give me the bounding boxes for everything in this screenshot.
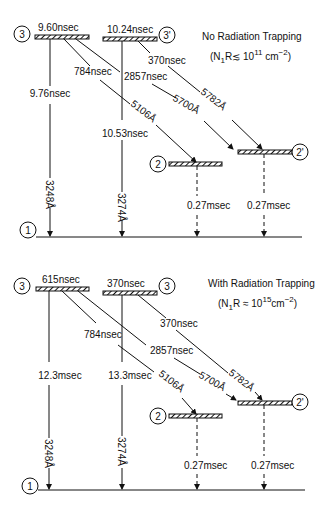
level-2prime-bar bbox=[238, 150, 292, 154]
svg-text:370nsec: 370nsec bbox=[148, 55, 186, 66]
level-3prime: 370nsec 3 bbox=[103, 278, 175, 295]
svg-text:2857nsec: 2857nsec bbox=[150, 345, 193, 356]
svg-text:3274Å: 3274Å bbox=[116, 437, 128, 466]
level-2: 2 bbox=[150, 156, 222, 172]
svg-text:9.76nsec: 9.76nsec bbox=[30, 88, 71, 99]
svg-text:5782Å: 5782Å bbox=[227, 366, 257, 393]
level-3prime-bar bbox=[103, 291, 157, 295]
level-3prime-lifetime: 370nsec bbox=[107, 278, 145, 289]
level-2prime-bar bbox=[238, 401, 292, 405]
svg-text:2: 2 bbox=[155, 411, 161, 422]
svg-text:5700Å: 5700Å bbox=[171, 91, 202, 116]
transition-2-to-1: 0.27msec bbox=[187, 166, 230, 236]
level-3-bar bbox=[36, 287, 89, 291]
svg-text:3: 3 bbox=[19, 29, 25, 40]
svg-text:3: 3 bbox=[19, 281, 25, 292]
panel-with-trapping: With Radiation Trapping (N1R ≈ 1015cm−2)… bbox=[14, 274, 315, 494]
level-3-lifetime: 615nsec bbox=[42, 274, 80, 285]
svg-text:0.27msec: 0.27msec bbox=[251, 460, 294, 471]
svg-text:5782Å: 5782Å bbox=[199, 85, 229, 112]
level-3-lifetime: 9.60nsec bbox=[38, 22, 79, 33]
svg-text:3': 3' bbox=[163, 30, 171, 41]
level-2: 2 bbox=[150, 408, 222, 424]
level-3prime: 10.24nsec 3' bbox=[103, 24, 175, 43]
transition-3-to-1: 12.3msec 3248Å bbox=[38, 291, 81, 489]
svg-text:10.53nsec: 10.53nsec bbox=[102, 128, 148, 139]
level-2prime: 2' bbox=[238, 144, 308, 160]
energy-level-diagram: No Radiation Trapping (N1R≲ 1011 cm−2) 3… bbox=[0, 0, 334, 512]
level-2-bar bbox=[169, 162, 222, 166]
svg-text:0.27msec: 0.27msec bbox=[184, 460, 227, 471]
level-2-bar bbox=[169, 414, 222, 418]
panel-no-trapping: No Radiation Trapping (N1R≲ 1011 cm−2) 3… bbox=[14, 22, 308, 238]
svg-text:3248Å: 3248Å bbox=[43, 439, 55, 468]
svg-text:3248Å: 3248Å bbox=[44, 180, 56, 209]
svg-text:1: 1 bbox=[27, 481, 33, 492]
svg-text:1: 1 bbox=[25, 225, 31, 236]
panel-title: No Radiation Trapping bbox=[202, 31, 302, 42]
svg-text:2': 2' bbox=[296, 397, 304, 408]
svg-text:2: 2 bbox=[155, 159, 161, 170]
panel-title: With Radiation Trapping bbox=[208, 278, 315, 289]
level-2prime: 2' bbox=[238, 394, 308, 410]
level-3-bar bbox=[35, 35, 89, 39]
svg-text:13.3msec: 13.3msec bbox=[108, 370, 151, 381]
level-3prime-bar bbox=[103, 37, 157, 41]
svg-text:3274Å: 3274Å bbox=[116, 193, 128, 222]
svg-text:5700Å: 5700Å bbox=[197, 368, 228, 393]
svg-text:12.3msec: 12.3msec bbox=[38, 370, 81, 381]
transition-3-to-1: 9.76nsec 3248Å bbox=[30, 39, 71, 236]
svg-text:2857nsec: 2857nsec bbox=[124, 71, 167, 82]
panel-condition: (N1R ≈ 1015cm−2) bbox=[218, 295, 297, 312]
transition-2-to-1: 0.27msec bbox=[184, 418, 227, 489]
svg-text:784nsec: 784nsec bbox=[74, 66, 112, 77]
transition-2prime-to-1: 0.27msec bbox=[247, 154, 290, 236]
svg-text:784nsec: 784nsec bbox=[84, 329, 122, 340]
transition-3prime-to-1: 13.3msec 3274Å bbox=[108, 295, 151, 489]
svg-text:3: 3 bbox=[164, 281, 170, 292]
transition-3-to-2prime: 2857nsec 5700Å bbox=[78, 291, 236, 400]
svg-text:0.27msec: 0.27msec bbox=[187, 200, 230, 211]
svg-text:0.27msec: 0.27msec bbox=[247, 200, 290, 211]
panel-condition: (N1R≲ 1011 cm−2) bbox=[210, 48, 291, 65]
svg-text:5106Å: 5106Å bbox=[157, 367, 187, 394]
svg-text:5106Å: 5106Å bbox=[129, 97, 159, 124]
transition-2prime-to-1: 0.27msec bbox=[251, 405, 294, 489]
level-3: 3 9.60nsec bbox=[14, 22, 89, 42]
svg-text:2': 2' bbox=[296, 147, 304, 158]
svg-text:370nsec: 370nsec bbox=[160, 318, 198, 329]
level-1: 1 bbox=[22, 478, 305, 494]
level-3: 3 615nsec bbox=[14, 274, 89, 294]
level-3prime-lifetime: 10.24nsec bbox=[107, 24, 153, 35]
level-1: 1 bbox=[20, 222, 302, 238]
